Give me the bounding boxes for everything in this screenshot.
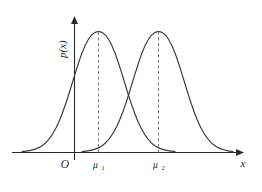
y-axis-arrowhead xyxy=(71,16,78,24)
figure-canvas: p(x) x O μ 1 μ 2 xyxy=(0,0,262,192)
mu2-subscript: 2 xyxy=(162,164,165,171)
mu2-symbol: μ xyxy=(152,160,158,170)
x-axis-label: x xyxy=(240,157,246,169)
y-axis-label: p(x) xyxy=(56,40,69,59)
density-curve-2 xyxy=(82,32,233,152)
x-tick-label-mu2: μ 2 xyxy=(152,160,165,171)
mu1-symbol: μ xyxy=(92,160,98,170)
probability-density-figure: p(x) x O μ 1 μ 2 xyxy=(0,0,262,192)
x-axis-arrowhead xyxy=(236,149,244,156)
origin-label: O xyxy=(61,158,70,170)
mu1-subscript: 1 xyxy=(102,164,105,171)
x-tick-label-mu1: μ 1 xyxy=(92,160,105,171)
